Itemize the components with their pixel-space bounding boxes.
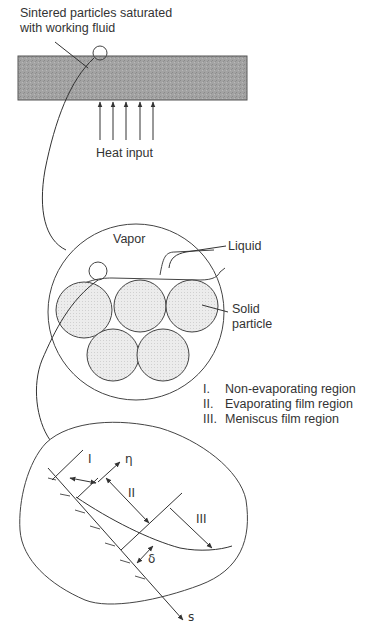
legend-text: Evaporating film region [225,397,353,412]
delta-label: δ [148,552,155,566]
legend-item: I.Non-evaporating region [203,382,356,397]
top-label-line2: with working fluid [20,21,172,36]
sintered-particles-label: Sintered particles saturated with workin… [20,6,172,36]
heat-input-label: Heat input [96,146,153,161]
top-label-line1: Sintered particles saturated [20,6,172,21]
liquid-label: Liquid [228,239,261,254]
solid-particle-label: Solid particle [232,302,272,332]
legend-num: I. [203,382,225,397]
heat-pipe-wick-diagram [0,0,374,639]
legend-text: Non-evaporating region [225,382,356,397]
region-legend: I.Non-evaporating region II.Evaporating … [203,382,356,427]
detail-view-outline [20,422,248,604]
solid-label-line2: particle [232,317,272,332]
legend-item: II.Evaporating film region [203,397,356,412]
legend-text: Meniscus film region [225,412,339,427]
legend-num: III. [203,412,225,427]
s-axis-label: s [188,610,194,624]
eta-label: η [125,452,133,466]
heat-arrows [100,102,153,140]
legend-num: II. [203,397,225,412]
solid-label-line1: Solid [232,302,272,317]
region-III-label: III [196,512,207,526]
vapor-label: Vapor [113,232,145,247]
legend-item: III.Meniscus film region [203,412,356,427]
region-I-label: I [88,452,92,466]
region-II-label: II [128,486,135,500]
sintered-block [18,56,247,100]
